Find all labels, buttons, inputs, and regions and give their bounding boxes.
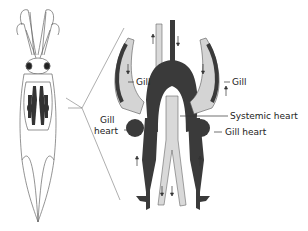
label-gill-heart-left-line1: Gill [100, 115, 114, 125]
circulation-detail [115, 20, 230, 210]
zoom-callout-lines [66, 28, 124, 200]
label-gill-left: Gill [136, 77, 150, 87]
diagram: Gill Gill Gill heart Systemic heart Gill… [0, 0, 308, 231]
label-gill-heart-right: Gill heart [225, 127, 266, 137]
label-gill-heart-left-line2: heart [94, 126, 118, 136]
label-gill-right: Gill [232, 77, 246, 87]
squid-illustration [17, 10, 59, 222]
label-systemic-heart: Systemic heart [230, 111, 298, 121]
